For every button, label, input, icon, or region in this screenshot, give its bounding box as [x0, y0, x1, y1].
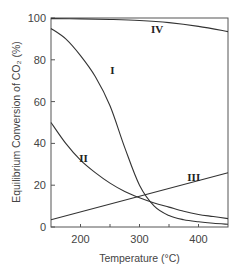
x-axis-title: Temperature (°C): [99, 252, 180, 264]
series-group: [51, 19, 228, 225]
y-axis-title: Equilibrium Conversion of CO₂ (%): [10, 41, 22, 203]
y-tick-label: 100: [28, 12, 46, 24]
chart: 020406080100200300400 IIIIIIIV Temperatu…: [0, 0, 239, 272]
curve-label-III: III: [187, 171, 200, 183]
curve-labels: IIIIIIIV: [79, 23, 200, 182]
y-tick-label: 60: [34, 96, 46, 108]
x-tick-label: 200: [71, 233, 89, 245]
series-line-IV: [51, 19, 228, 32]
curve-label-II: II: [79, 152, 88, 164]
x-tick-label: 300: [130, 233, 148, 245]
axes: 020406080100200300400: [28, 12, 228, 245]
series-line-II: [51, 123, 228, 219]
curve-label-IV: IV: [151, 23, 163, 35]
y-tick-label: 40: [34, 137, 46, 149]
x-tick-label: 400: [189, 233, 207, 245]
y-tick-label: 0: [40, 221, 46, 233]
curve-label-I: I: [110, 64, 114, 76]
y-tick-label: 20: [34, 179, 46, 191]
y-tick-label: 80: [34, 54, 46, 66]
series-line-I: [51, 28, 228, 224]
series-line-III: [51, 173, 228, 220]
